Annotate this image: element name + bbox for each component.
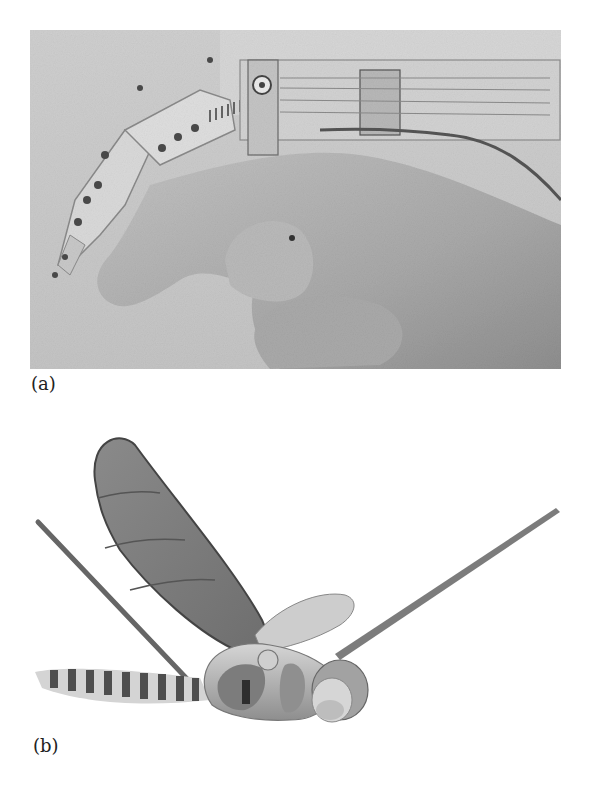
panel-label-a: (a) [31, 375, 56, 393]
panel-label-b: (b) [33, 737, 59, 755]
figure-photo-b-robotic-dragonfly [0, 420, 593, 740]
figure-photo-a-exoskeleton-hand [30, 30, 561, 369]
exoskeleton-hand-illustration [30, 30, 561, 369]
robotic-dragonfly-illustration [0, 420, 593, 740]
